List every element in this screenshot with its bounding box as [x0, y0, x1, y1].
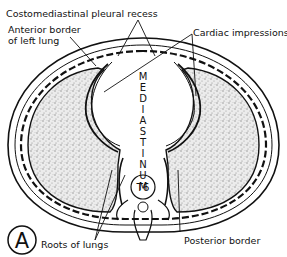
figure-letter-badge: A: [8, 226, 36, 254]
svg-text:I: I: [142, 148, 145, 159]
costomediastinal-label: Costomediastinal pleural recess: [6, 8, 158, 19]
svg-text:A: A: [15, 229, 30, 253]
svg-text:I: I: [142, 104, 145, 115]
svg-text:D: D: [139, 93, 147, 104]
thorax-cross-section-diagram: T6 M E D I A S T I N U M Costomediastina…: [0, 0, 287, 257]
svg-text:N: N: [139, 159, 146, 170]
svg-text:M: M: [139, 181, 148, 192]
svg-text:U: U: [139, 170, 146, 181]
mediastinum-label: M E D I A S T I N U M: [139, 71, 148, 192]
roots-of-lungs-label: Roots of lungs: [41, 239, 108, 250]
svg-text:S: S: [140, 126, 146, 137]
svg-text:E: E: [140, 82, 146, 93]
svg-text:M: M: [139, 71, 148, 82]
left-lung: [28, 68, 120, 212]
svg-text:T: T: [139, 137, 147, 148]
anterior-border-label-2: of left lung: [8, 35, 59, 46]
posterior-border-label: Posterior border: [184, 235, 260, 246]
right-lung: [166, 68, 259, 212]
svg-text:A: A: [140, 115, 147, 126]
cardiac-impressions-label: Cardiac impressions: [193, 27, 287, 38]
anterior-border-label-1: Anterior border: [8, 24, 81, 35]
